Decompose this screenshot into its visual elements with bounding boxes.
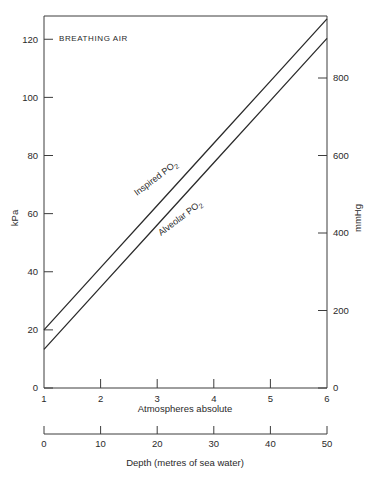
y-tick-label: 40 <box>27 266 38 277</box>
left-axis-ticks <box>44 39 53 388</box>
series-label-inspired-main: Inspired P <box>132 165 170 197</box>
series-line-2 <box>44 38 327 349</box>
y-tick-label: 100 <box>22 92 38 103</box>
x-axis-title: Atmospheres absolute <box>138 403 233 414</box>
y2-axis-title: mmHg <box>352 204 363 232</box>
right-axis-ticks <box>318 78 327 388</box>
series-label-inspired: Inspired PO2 <box>132 159 180 199</box>
depth-axis-title: Depth (metres of sea water) <box>126 457 244 468</box>
x-tick-label: 5 <box>268 393 273 404</box>
left-axis-tick-labels: 020406080100120 <box>22 34 38 394</box>
depth-tick-label: 20 <box>152 438 163 449</box>
x-tick-label: 6 <box>324 393 329 404</box>
y2-tick-label: 400 <box>333 227 349 238</box>
series-line-1 <box>44 19 327 330</box>
x-tick-label: 2 <box>98 393 103 404</box>
depth-tick-label: 0 <box>41 438 46 449</box>
y-tick-label: 0 <box>33 382 38 393</box>
bottom-axis-ticks <box>101 379 271 388</box>
depth-axis: 01020304050 <box>41 426 332 449</box>
depth-tick-label: 10 <box>95 438 106 449</box>
y2-tick-label: 600 <box>333 150 349 161</box>
po2-vs-atmospheres-chart: 020406080100120 0200400600800 123456 010… <box>0 0 378 479</box>
series-label-alveolar-main: Alveolar P <box>156 205 195 238</box>
y-tick-label: 120 <box>22 34 38 45</box>
plot-frame <box>44 16 327 388</box>
y2-tick-label: 800 <box>333 72 349 83</box>
right-axis-tick-labels: 0200400600800 <box>333 72 349 393</box>
y-tick-label: 60 <box>27 208 38 219</box>
y2-tick-label: 0 <box>333 382 338 393</box>
depth-tick-label: 50 <box>322 438 333 449</box>
series-lines <box>44 19 327 349</box>
y2-tick-label: 200 <box>333 305 349 316</box>
svg-text:Inspired PO2: Inspired PO2 <box>132 159 180 199</box>
x-tick-label: 1 <box>41 393 46 404</box>
plot-title: BREATHING AIR <box>59 34 128 43</box>
y-axis-title: kPa <box>9 209 20 226</box>
chart-figure: 020406080100120 0200400600800 123456 010… <box>0 0 378 479</box>
y-tick-label: 80 <box>27 150 38 161</box>
depth-tick-label: 40 <box>265 438 276 449</box>
y-tick-label: 20 <box>27 324 38 335</box>
depth-tick-label: 30 <box>209 438 220 449</box>
